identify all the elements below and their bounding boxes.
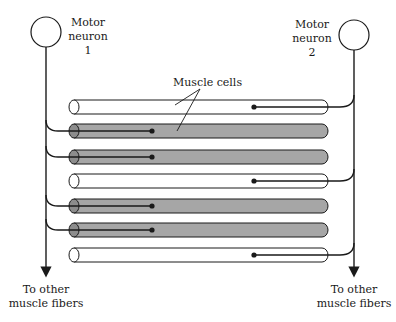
- neuron-1-label-line3: 1: [85, 44, 92, 57]
- left-label-line2: muscle fibers: [9, 297, 84, 310]
- neuron-2-label-line2: neuron: [292, 32, 332, 45]
- neuron-1-label-line1: Motor: [71, 16, 106, 29]
- neuron-2-label-line3: 2: [309, 46, 316, 59]
- right-label-line2: muscle fibers: [317, 297, 392, 310]
- right-bottom-label: To other muscle fibers: [317, 283, 392, 310]
- left-label-line1: To other: [23, 283, 70, 296]
- motor-unit-diagram: Motor neuron 1 Motor neuron 2: [0, 0, 396, 322]
- motor-neuron-2: Motor neuron 2: [292, 18, 369, 59]
- muscle-cells-label: Muscle cells: [173, 76, 242, 89]
- left-bottom-label: To other muscle fibers: [9, 283, 84, 310]
- neuron-2-label-line1: Motor: [295, 18, 330, 31]
- neuron-1-label-line2: neuron: [68, 30, 108, 43]
- right-label-line1: To other: [331, 283, 378, 296]
- motor-neuron-1: Motor neuron 1: [31, 16, 108, 57]
